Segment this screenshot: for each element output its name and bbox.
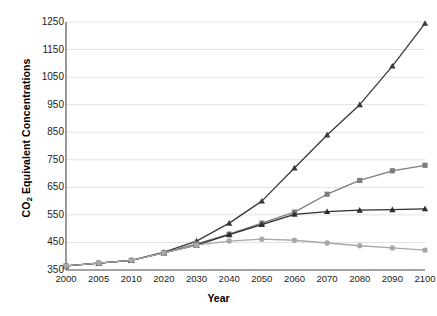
x-tick-label: 2020 xyxy=(153,273,174,284)
x-tick-label: 2040 xyxy=(219,273,240,284)
x-tick-label: 2030 xyxy=(186,273,207,284)
x-tick-label: 2000 xyxy=(55,273,76,284)
x-tick-label: 2010 xyxy=(121,273,142,284)
x-axis-tick-labels: 2000200520102020203020402050206020702080… xyxy=(0,0,437,316)
chart-container: CO2 Equivalent Concentrations Year 35045… xyxy=(0,0,437,316)
x-tick-label: 2100 xyxy=(414,273,435,284)
x-tick-label: 2005 xyxy=(88,273,109,284)
x-tick-label: 2060 xyxy=(284,273,305,284)
x-tick-label: 2070 xyxy=(317,273,338,284)
x-tick-label: 2080 xyxy=(349,273,370,284)
x-tick-label: 2050 xyxy=(251,273,272,284)
x-tick-label: 2090 xyxy=(382,273,403,284)
